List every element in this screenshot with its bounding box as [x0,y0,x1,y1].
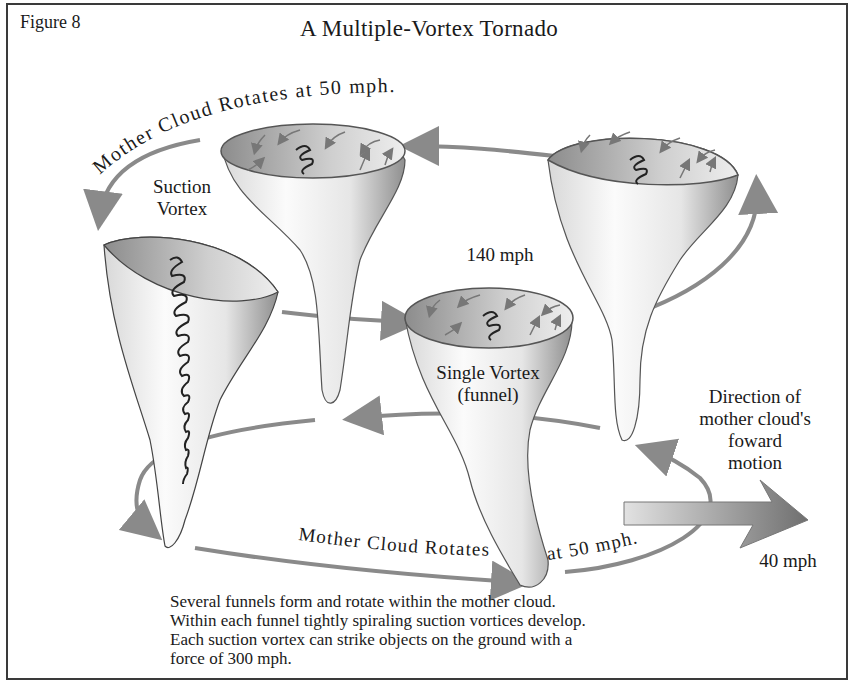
caption-line: Several funnels form and rotate within t… [170,592,730,611]
caption-line: Each suction vortex can strike objects o… [170,630,730,649]
direction-line1: Direction of [680,386,830,408]
caption-line: force of 300 mph. [170,649,730,668]
direction-line4: motion [680,452,830,474]
speed-40-label: 40 mph [738,550,838,572]
suction-vortex-label: Suction Vortex [132,176,232,220]
speed-140-label: 140 mph [440,244,560,266]
single-vortex-line2: (funnel) [418,384,558,406]
direction-line3: foward [680,430,830,452]
direction-label: Direction of mother cloud's foward motio… [680,386,830,474]
svg-text:Mother Cloud Rotates: Mother Cloud Rotates [297,523,490,560]
figure-caption: Several funnels form and rotate within t… [170,592,730,668]
single-vortex-label: Single Vortex (funnel) [418,362,558,406]
svg-text:at 50 mph.: at 50 mph. [546,526,641,564]
caption-line: Within each funnel tightly spiraling suc… [170,611,730,630]
single-vortex-line1: Single Vortex [418,362,558,384]
suction-vortex-line1: Suction [132,176,232,198]
suction-vortex-line2: Vortex [132,198,232,220]
direction-line2: mother cloud's [680,408,830,430]
